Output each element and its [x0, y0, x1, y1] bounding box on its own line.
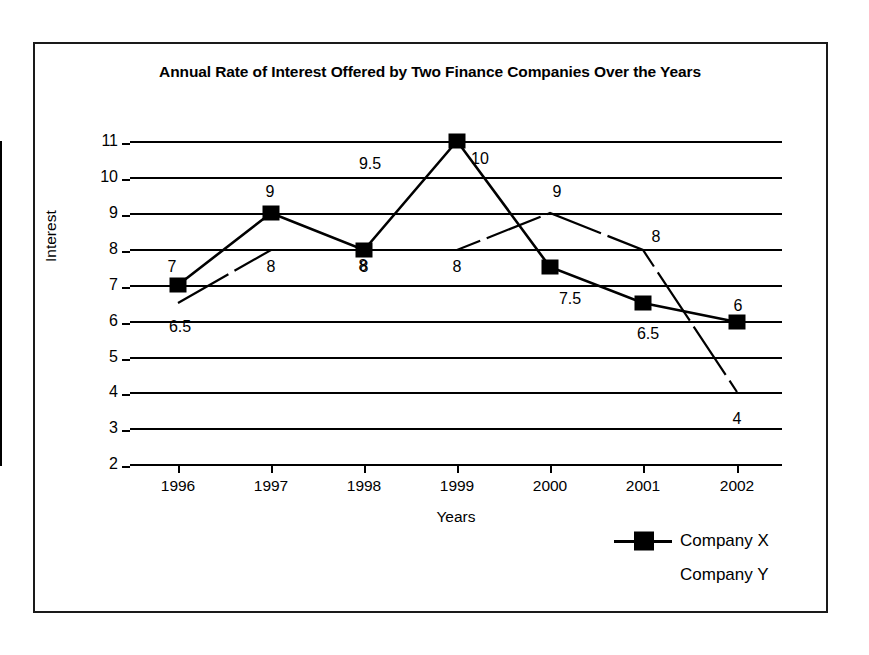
gridline-7: 7: [130, 285, 782, 287]
data-label-y-2002: 4: [733, 410, 742, 428]
y-tick-5: [122, 359, 130, 361]
data-label-y-2001: 8: [652, 228, 661, 246]
x-tick-2000: [550, 464, 552, 473]
y-tick-label-10: 10: [100, 168, 118, 186]
data-label-y-2000: 9: [553, 183, 562, 201]
x-tick-label-1998: 1998: [347, 477, 381, 495]
data-label-x-2002: 6: [734, 297, 743, 315]
x-tick-1999: [457, 464, 459, 473]
y-tick-label-3: 3: [109, 419, 118, 437]
y-tick-label-9: 9: [109, 204, 118, 222]
gridline-6: 6: [130, 321, 782, 323]
data-point-1996[interactable]: [170, 278, 187, 293]
x-tick-2002: [737, 464, 739, 473]
y-tick-2: [122, 466, 130, 468]
data-point-2000[interactable]: [542, 260, 559, 275]
y-tick-4: [122, 394, 130, 396]
data-point-1997[interactable]: [263, 206, 280, 221]
data-point-2001[interactable]: [635, 296, 652, 311]
y-tick-3: [122, 430, 130, 432]
legend-label-company-x: Company X: [680, 531, 769, 551]
data-label-x-1996: 7: [168, 258, 177, 276]
y-axis-line: [0, 141, 2, 466]
data-label-x-1997: 9: [266, 183, 275, 201]
square-marker-icon: [634, 532, 654, 551]
gridline-9: 9: [130, 213, 782, 215]
gridline-5: 5: [130, 357, 782, 359]
x-tick-2001: [643, 464, 645, 473]
data-label-y-1997: 8: [267, 258, 276, 276]
x-tick-label-2002: 2002: [720, 477, 754, 495]
y-tick-label-5: 5: [109, 348, 118, 366]
data-point-1998[interactable]: [356, 243, 373, 258]
data-label-y-1998: 8: [360, 258, 369, 276]
x-tick-1998: [364, 464, 366, 473]
gridline-4: 4: [130, 392, 782, 394]
x-tick-label-2001: 2001: [626, 477, 660, 495]
y-tick-label-4: 4: [109, 383, 118, 401]
data-label-y-1996: 6.5: [169, 318, 191, 336]
data-label-y-1998-upper: 9.5: [359, 155, 381, 173]
chart-title: Annual Rate of Interest Offered by Two F…: [95, 62, 765, 83]
y-tick-label-8: 8: [109, 240, 118, 258]
gridline-8: 8: [130, 249, 782, 251]
legend-item-company-x[interactable]: Company X: [608, 524, 769, 558]
legend: Company X Company Y: [608, 524, 769, 592]
x-tick-label-1999: 1999: [440, 477, 474, 495]
legend-item-company-y[interactable]: Company Y: [608, 558, 769, 592]
legend-label-company-y: Company Y: [680, 565, 769, 585]
x-tick-label-1997: 1997: [254, 477, 288, 495]
data-label-x-2001: 6.5: [637, 325, 659, 343]
data-label-x-1999: 10: [471, 150, 489, 168]
y-tick-8: [122, 251, 130, 253]
y-tick-7: [122, 287, 130, 289]
y-tick-10: [122, 179, 130, 181]
chart-page: Annual Rate of Interest Offered by Two F…: [0, 0, 869, 655]
y-tick-6: [122, 323, 130, 325]
x-tick-label-1996: 1996: [161, 477, 195, 495]
x-tick-1997: [271, 464, 273, 473]
y-tick-label-2: 2: [109, 455, 118, 473]
data-label-y-1999: 8: [453, 258, 462, 276]
gridline-10: 10: [130, 177, 782, 179]
y-tick-label-6: 6: [109, 312, 118, 330]
y-tick-label-11: 11: [101, 132, 118, 150]
plot-area: 11 10 9 8 7 6 5 4: [130, 141, 782, 464]
x-tick-1996: [178, 464, 180, 473]
x-axis-line: [130, 464, 782, 466]
y-tick-label-7: 7: [109, 276, 118, 294]
y-tick-9: [122, 215, 130, 217]
data-point-2002[interactable]: [729, 315, 746, 330]
x-tick-label-2000: 2000: [533, 477, 567, 495]
gridline-3: 3: [130, 428, 782, 430]
legend-marker-company-x: [608, 530, 680, 552]
y-axis-title: Interest: [42, 210, 60, 262]
y-tick-11: [122, 143, 130, 145]
data-point-1999[interactable]: [449, 134, 466, 149]
data-label-x-2000: 7.5: [559, 290, 581, 308]
legend-marker-company-y: [608, 564, 680, 586]
